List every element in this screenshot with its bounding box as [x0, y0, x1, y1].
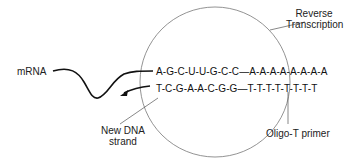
new-dna-leader — [120, 98, 158, 124]
mrna-label: mRNA — [17, 66, 46, 77]
mrna-sequence: A-G-C-U-U-G-C-C—A-A-A-A-A-A-A-A — [156, 66, 327, 77]
new-dna-arrow-line — [124, 86, 150, 93]
reverse-transcription-label: Reverse Transcription — [286, 8, 342, 30]
label-line: New DNA — [96, 125, 150, 136]
label-line: Transcription — [286, 19, 342, 30]
oligo-t-primer-label: Oligo-T primer — [266, 128, 330, 139]
dna-sequence: T-C-G-A-A-C-G-G—T-T-T-T-T-T-T-T — [156, 83, 317, 94]
label-line: strand — [96, 136, 150, 147]
mrna-wavy-line — [53, 69, 153, 98]
arrow-head-icon — [120, 90, 128, 96]
new-dna-strand-label: New DNA strand — [96, 125, 150, 147]
label-line: Reverse — [286, 8, 342, 19]
